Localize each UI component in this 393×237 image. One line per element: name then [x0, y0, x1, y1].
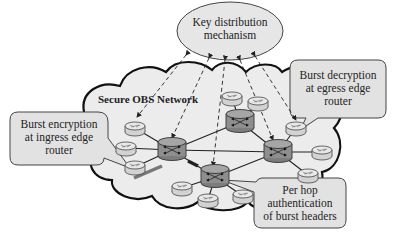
edge-router-icon [172, 182, 192, 196]
edge-router-icon [312, 146, 332, 160]
edge-router-icon [125, 122, 145, 136]
core-router-icon [226, 110, 254, 133]
edge-router-icon [298, 169, 318, 183]
per-hop-line2: authentication [254, 197, 346, 210]
ingress-line2: at ingress edge [10, 131, 108, 144]
edge-router-icon [116, 142, 136, 156]
core-router-icon [158, 138, 186, 161]
key-distribution-line2: mechanism [180, 29, 280, 42]
core-router-icon [201, 165, 229, 188]
egress-line2: at egress edge [290, 82, 386, 95]
edge-router-icon [248, 97, 268, 111]
key-distribution-line1: Key distribution [180, 16, 280, 29]
per-hop-line3: of burst headers [254, 210, 346, 223]
edge-router-icon [198, 194, 218, 208]
network-title: Secure OBS Network [98, 93, 198, 105]
per-hop-callout-label: Per hop authentication of burst headers [254, 184, 346, 223]
ingress-line1: Burst encryption [10, 118, 108, 131]
edge-router-icon [125, 161, 145, 175]
ingress-callout-label: Burst encryption at ingress edge router [10, 118, 108, 157]
edge-router-icon [286, 122, 306, 136]
egress-line1: Burst decryption [290, 69, 386, 82]
per-hop-line1: Per hop [254, 184, 346, 197]
key-distribution-label: Key distribution mechanism [180, 16, 280, 42]
egress-line3: router [290, 95, 386, 108]
edge-router-icon [233, 190, 253, 204]
edge-router-icon [222, 92, 242, 106]
core-router-icon [264, 140, 292, 163]
secure-obs-network-diagram: Key distribution mechanism Secure OBS Ne… [0, 0, 393, 237]
ingress-line3: router [10, 144, 108, 157]
egress-callout-label: Burst decryption at egress edge router [290, 69, 386, 108]
